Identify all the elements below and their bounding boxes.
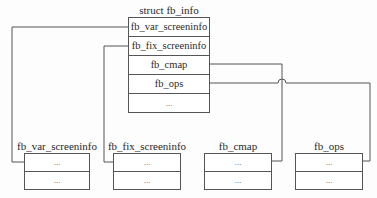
sub-struct-title-fix-screeninfo: fb_fix_screeninfo: [104, 140, 190, 152]
sub-struct-box-var-screeninfo: ... ...: [24, 153, 90, 190]
sub-struct-box-fix-screeninfo: ... ...: [113, 153, 181, 190]
main-struct-box: fb_var_screeninfo fb_fix_screeninfo fb_c…: [128, 17, 210, 113]
field-fb-var-screeninfo: fb_var_screeninfo: [129, 18, 209, 37]
sub-row: ...: [25, 154, 89, 172]
field-ellipsis: ...: [129, 94, 209, 113]
sub-row: ...: [205, 172, 271, 190]
sub-struct-box-cmap: ... ...: [204, 153, 272, 190]
main-struct-title: struct fb_info: [128, 4, 210, 16]
sub-struct-title-ops: fb_ops: [295, 140, 363, 152]
sub-row: ...: [296, 172, 362, 190]
field-fb-cmap: fb_cmap: [129, 56, 209, 75]
sub-struct-box-ops: ... ...: [295, 153, 363, 190]
sub-row: ...: [25, 172, 89, 190]
sub-row: ...: [114, 154, 180, 172]
sub-struct-title-cmap: fb_cmap: [204, 140, 272, 152]
field-fb-ops: fb_ops: [129, 75, 209, 94]
sub-row: ...: [296, 154, 362, 172]
sub-struct-title-var-screeninfo: fb_var_screeninfo: [14, 140, 100, 152]
sub-row: ...: [114, 172, 180, 190]
sub-row: ...: [205, 154, 271, 172]
field-fb-fix-screeninfo: fb_fix_screeninfo: [129, 37, 209, 56]
